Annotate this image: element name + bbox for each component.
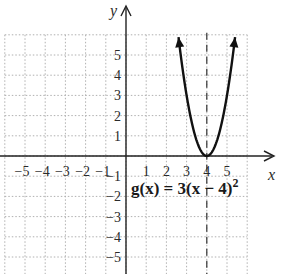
y-axis-label: y — [108, 2, 118, 20]
x-tick-label: −5 — [15, 164, 30, 179]
y-tick-label: −3 — [106, 210, 121, 225]
y-tick-label: −5 — [106, 250, 121, 265]
y-tick-label: 5 — [114, 48, 121, 63]
y-tick-label: 3 — [114, 88, 121, 103]
x-tick-label: 3 — [183, 164, 190, 179]
x-tick-label: 2 — [163, 164, 170, 179]
y-tick-label: −4 — [106, 230, 121, 245]
x-tick-label: −3 — [55, 164, 70, 179]
y-tick-label: 1 — [114, 129, 121, 144]
graph: −5−4−3−2−11234554321−1−2−3−4−5 x y g(x) … — [0, 0, 283, 274]
x-axis-label: x — [267, 166, 275, 183]
y-tick-label: −2 — [106, 189, 121, 204]
x-tick-label: −4 — [35, 164, 50, 179]
y-tick-label: 2 — [114, 109, 121, 124]
function-label-exponent: 2 — [233, 176, 239, 190]
x-tick-label: 1 — [143, 164, 150, 179]
function-label-text: g(x) = 3(x − 4) — [131, 179, 233, 198]
x-tick-label: 5 — [224, 164, 231, 179]
function-label: g(x) = 3(x − 4)2 — [131, 176, 239, 198]
y-tick-label: −1 — [106, 169, 121, 184]
x-tick-label: −2 — [75, 164, 90, 179]
y-tick-label: 4 — [114, 68, 121, 83]
